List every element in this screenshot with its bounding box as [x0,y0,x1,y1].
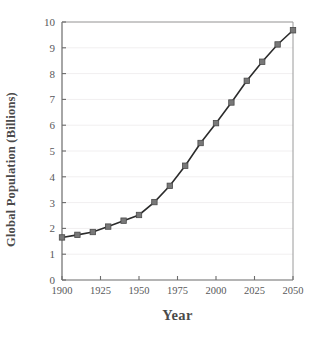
x-tick-label: 1925 [90,285,111,296]
data-point-marker [290,28,295,33]
chart-background [0,0,316,339]
data-point-marker [198,140,203,145]
y-tick-label: 1 [50,248,56,260]
x-tick-label: 1975 [167,285,188,296]
x-tick-label: 2000 [206,285,227,296]
data-point-marker [183,163,188,168]
y-tick-label: 9 [50,42,56,54]
x-tick-label: 1900 [52,285,73,296]
data-point-marker [213,120,218,125]
data-point-marker [121,218,126,223]
x-tick-label: 2025 [244,285,265,296]
y-tick-label: 6 [50,119,56,131]
data-point-marker [152,199,157,204]
y-tick-label: 2 [50,222,56,234]
y-tick-label: 8 [50,68,56,80]
data-point-marker [167,183,172,188]
y-tick-label: 4 [50,171,56,183]
population-line-chart: 012345678910 190019251950197520002025205… [0,0,316,339]
x-axis-label: Year [62,307,293,324]
data-point-marker [229,100,234,105]
y-tick-label: 3 [50,197,56,209]
data-point-marker [75,232,80,237]
y-axis-label: Global Population (Billions) [0,0,22,339]
y-tick-label: 5 [50,145,56,157]
data-point-marker [136,212,141,217]
chart-figure: 012345678910 190019251950197520002025205… [0,0,316,339]
data-point-marker [59,235,64,240]
data-point-marker [275,42,280,47]
y-tick-label: 10 [44,16,56,28]
data-point-marker [90,229,95,234]
data-point-marker [244,78,249,83]
x-tick-label: 2050 [283,285,304,296]
y-tick-label: 7 [50,93,56,105]
data-point-marker [260,59,265,64]
x-tick-label: 1950 [129,285,150,296]
data-point-marker [106,224,111,229]
